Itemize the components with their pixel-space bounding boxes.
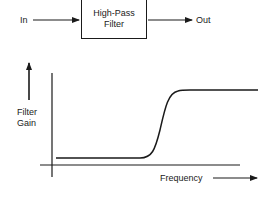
input-label: In <box>20 15 28 25</box>
y-axis-label-line1: Filter <box>17 107 37 117</box>
block-title-line1: High-Pass <box>93 8 135 19</box>
block-title-line2: Filter <box>104 19 124 30</box>
y-axis-label-line2: Gain <box>17 118 36 128</box>
high-pass-filter-block: High-Pass Filter <box>81 0 147 39</box>
high-pass-response-curve <box>56 90 258 158</box>
output-label: Out <box>196 15 211 25</box>
x-axis-label: Frequency <box>160 173 203 183</box>
